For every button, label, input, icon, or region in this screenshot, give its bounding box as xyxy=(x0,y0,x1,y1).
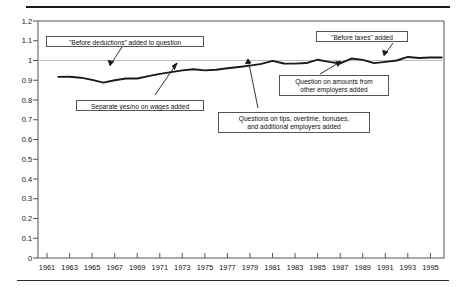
ytick-label: 0 xyxy=(10,255,32,262)
annotation-before-deductions: "Before deductions" added to question xyxy=(46,36,204,47)
annotation-before-taxes: "Before taxes" added xyxy=(316,31,408,42)
y-tick-marks xyxy=(33,21,38,258)
ytick-label: 0.6 xyxy=(10,136,32,143)
figure-container: 1.2 1.1 1 0.9 0.8 0.7 0.6 0.5 0.4 0.3 0.… xyxy=(0,0,456,289)
ytick-label: 0.7 xyxy=(10,116,32,123)
ytick-label: 0.9 xyxy=(10,77,32,84)
ytick-label: 1.2 xyxy=(10,18,32,25)
ytick-label: 0.3 xyxy=(10,195,32,202)
plot-frame xyxy=(38,21,444,258)
annotation-other-employers-amounts: Question on amounts from other employers… xyxy=(279,75,389,96)
ytick-label: 0.5 xyxy=(10,156,32,163)
ytick-label: 1 xyxy=(10,57,32,64)
xtick-label: 1995 xyxy=(416,264,444,271)
ytick-label: 0.4 xyxy=(10,176,32,183)
ytick-label: 0.2 xyxy=(10,215,32,222)
ytick-label: 1.1 xyxy=(10,37,32,44)
annotation-tips-overtime-bonuses: Questions on tips, overtime, bonuses, an… xyxy=(218,112,370,133)
ytick-label: 0.8 xyxy=(10,97,32,104)
ytick-label: 0.1 xyxy=(10,235,32,242)
annotation-separate-yes-no: Separate yes/no on wages added xyxy=(76,100,204,111)
